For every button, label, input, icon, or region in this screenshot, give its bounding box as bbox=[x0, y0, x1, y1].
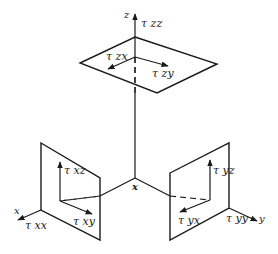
tau-xz-label: τ xz bbox=[64, 164, 86, 177]
stress-tensor-diagram: z τ zz τ zx τ zy x τ xz τ xy x τ xx τ yz… bbox=[0, 0, 278, 254]
z-axis-label: z bbox=[123, 9, 130, 20]
tau-yy-label: τ yy bbox=[226, 212, 249, 225]
y-axis-label: y bbox=[258, 213, 265, 224]
tau-zz-label: τ zz bbox=[141, 17, 162, 30]
tau-zy-label: τ zy bbox=[152, 67, 174, 80]
x-axis-label: x bbox=[14, 205, 20, 216]
tau-zx-label: τ zx bbox=[106, 50, 128, 63]
x-axis bbox=[100, 178, 135, 196]
tau-yz-label: τ yz bbox=[213, 164, 235, 177]
tau-yx-label: τ yx bbox=[178, 214, 201, 227]
origin-label: x bbox=[131, 181, 139, 192]
tau-xx-label: τ xx bbox=[25, 219, 48, 232]
tau-xy-label: τ xy bbox=[73, 215, 96, 228]
y-axis bbox=[135, 178, 170, 196]
top-plane bbox=[80, 37, 217, 93]
